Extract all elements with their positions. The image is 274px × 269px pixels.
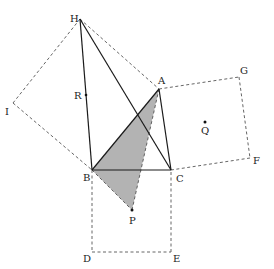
label-e: E	[173, 253, 180, 264]
label-q: Q	[201, 125, 209, 136]
label-c: C	[176, 173, 184, 184]
segment-hi	[13, 19, 80, 103]
point-q-dot	[204, 121, 207, 124]
segment-gf	[239, 77, 250, 158]
point-r-dot	[85, 94, 88, 97]
label-d: D	[83, 253, 91, 264]
point-p-dot	[131, 209, 134, 212]
label-f: F	[253, 155, 260, 166]
label-b: B	[83, 172, 90, 183]
segment-ag	[159, 77, 239, 89]
geometry-diagram: H A G I R Q F B C P D E	[0, 0, 274, 269]
label-h: H	[70, 13, 79, 24]
label-i: I	[5, 106, 9, 117]
shaded-triangle-bap	[92, 89, 159, 210]
segment-ha	[80, 19, 159, 89]
segment-fc	[171, 158, 250, 170]
label-p: P	[129, 215, 136, 226]
label-r: R	[74, 90, 82, 101]
segment-ac	[159, 89, 171, 170]
label-a: A	[157, 75, 166, 86]
label-g: G	[240, 65, 248, 76]
segment-ib	[13, 103, 92, 170]
